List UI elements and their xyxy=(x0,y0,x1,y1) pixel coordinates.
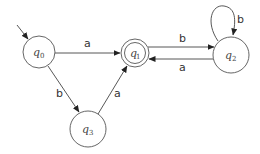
state-subscript-q1: 1 xyxy=(136,53,140,61)
state-q3: q 3 xyxy=(70,111,106,147)
edge-label-q1-q2: b xyxy=(179,32,186,45)
state-subscript-q2: 2 xyxy=(232,55,236,63)
state-subscript-q0: 0 xyxy=(40,52,44,60)
initial-state-arrow xyxy=(17,25,28,39)
edge-label-q2-q2: b xyxy=(237,13,244,26)
state-q0: q 0 xyxy=(23,36,55,68)
edge-q2-self-loop xyxy=(211,6,235,41)
edge-label-q2-q1: a xyxy=(179,61,186,74)
state-label-q2: q xyxy=(225,49,232,62)
state-label-q0: q xyxy=(33,46,40,59)
state-q1: q 1 xyxy=(121,39,149,67)
edge-q0-q3 xyxy=(48,66,79,112)
edge-label-q0-q3: b xyxy=(56,87,63,100)
state-label-q3: q xyxy=(82,123,89,136)
state-q2: q 2 xyxy=(213,37,249,73)
automaton-diagram: a b a b b a q 0 q 1 q 2 q 3 xyxy=(0,0,260,154)
edge-label-q0-q1: a xyxy=(84,37,91,50)
edge-label-q3-q1: a xyxy=(114,87,121,100)
edge-q3-q1 xyxy=(98,66,127,114)
state-subscript-q3: 3 xyxy=(89,129,93,137)
